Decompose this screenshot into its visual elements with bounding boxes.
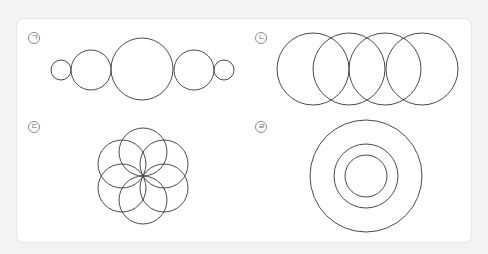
figure-a-tangent-circles (51, 38, 234, 100)
circle-b-3 (386, 33, 458, 105)
circle-a-1 (71, 50, 111, 90)
figure-label-b: ㄴ (255, 32, 267, 44)
figure-label-c: ㄷ (28, 121, 40, 133)
figure-c-flower-circles (98, 128, 188, 224)
figure-label-d: ㄹ (255, 121, 267, 133)
circle-d-1 (334, 144, 398, 208)
circle-a-0 (51, 60, 71, 80)
circle-figures (0, 0, 488, 254)
figure-b-overlapping-circles (277, 33, 458, 105)
figure-label-a: ㄱ (28, 32, 40, 44)
circle-d-2 (345, 155, 387, 197)
circle-d-0 (310, 120, 422, 232)
circle-a-3 (174, 50, 214, 90)
figure-d-concentric-circles (310, 120, 422, 232)
circle-a-4 (214, 60, 234, 80)
diagram-stage: ㄱ ㄴ ㄷ ㄹ (0, 0, 488, 254)
circle-a-2 (111, 38, 173, 100)
